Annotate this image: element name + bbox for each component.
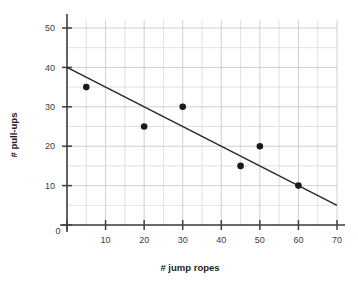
data-point [237,163,244,170]
x-tick-label: 70 [332,235,342,245]
y-tick-label: 10 [45,181,55,191]
y-axis-title: # pull-ups [8,113,19,158]
y-tick-label: 50 [45,23,55,33]
x-tick-label: 10 [101,235,111,245]
data-point [141,123,148,130]
plot-canvas: 010203040506070 1020304050 # jump ropes … [0,0,358,286]
data-point [179,104,186,111]
x-tick-label: 30 [178,235,188,245]
x-axis-title: # jump ropes [160,262,219,273]
x-tick-label: 50 [255,235,265,245]
gridlines-minor [67,20,337,225]
y-axis-tick-labels: 1020304050 [45,23,55,191]
tick-marks [62,28,337,230]
axis-lines [60,14,345,232]
data-point [257,143,264,150]
y-tick-label: 20 [45,141,55,151]
x-tick-label: 60 [293,235,303,245]
y-tick-label: 30 [45,102,55,112]
x-tick-label: 0 [55,226,60,236]
data-point [83,84,90,91]
x-tick-label: 20 [139,235,149,245]
data-point [295,182,302,189]
data-points [83,84,302,189]
x-tick-label: 40 [216,235,226,245]
y-tick-label: 40 [45,63,55,73]
scatter-plot-figure: 010203040506070 1020304050 # jump ropes … [0,0,358,286]
